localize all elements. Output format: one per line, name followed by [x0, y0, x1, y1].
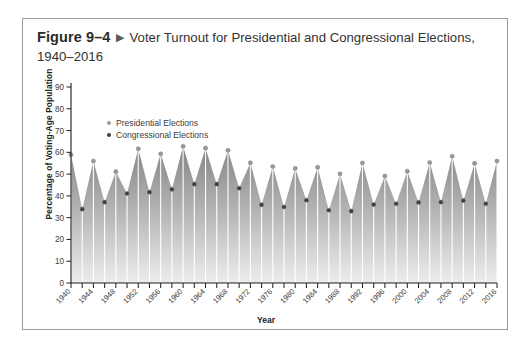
congressional-data-point	[349, 209, 353, 213]
legend-label-congressional: Congressional Elections	[116, 130, 208, 140]
chart-legend: Presidential Elections Congressional Ele…	[107, 117, 208, 141]
presidential-data-point	[316, 165, 320, 169]
x-tick-label: 1968	[211, 287, 229, 305]
presidential-marker-icon	[107, 121, 111, 125]
congressional-data-point	[461, 199, 465, 203]
congressional-marker-icon	[107, 133, 111, 137]
presidential-data-point	[360, 161, 364, 165]
x-tick-label: 1952	[121, 287, 139, 305]
congressional-data-point	[327, 208, 331, 212]
congressional-data-point	[372, 203, 376, 207]
congressional-data-point	[282, 205, 286, 209]
congressional-data-point	[192, 182, 196, 186]
y-tick-label: 70	[55, 127, 65, 136]
congressional-data-point	[215, 182, 219, 186]
legend-item-presidential: Presidential Elections	[107, 117, 208, 129]
presidential-data-point	[271, 164, 275, 168]
x-tick-label: 2008	[435, 287, 453, 305]
y-tick-label: 10	[55, 257, 65, 266]
presidential-data-point	[181, 144, 185, 148]
x-tick-label: 1960	[166, 287, 184, 305]
presidential-data-point	[203, 146, 207, 150]
legend-item-congressional: Congressional Elections	[107, 129, 208, 141]
congressional-data-point	[394, 202, 398, 206]
congressional-data-point	[259, 203, 263, 207]
y-tick-label: 20	[55, 235, 65, 244]
x-tick-label: 1948	[99, 287, 117, 305]
x-tick-label: 2000	[390, 287, 408, 305]
y-tick-label: 80	[55, 105, 65, 114]
x-tick-label: 1992	[346, 287, 364, 305]
chart-area: 0102030405060708090194019441948195219561…	[23, 19, 509, 331]
congressional-data-point	[170, 187, 174, 191]
y-tick-label: 40	[55, 192, 65, 201]
presidential-data-point	[338, 172, 342, 176]
presidential-data-point	[159, 152, 163, 156]
x-tick-label: 1996	[368, 287, 386, 305]
x-tick-label: 2004	[413, 287, 431, 305]
x-axis-title: Year	[23, 315, 509, 325]
presidential-data-point	[91, 159, 95, 163]
turnout-area-chart: 0102030405060708090194019441948195219561…	[23, 19, 509, 331]
presidential-data-point	[114, 170, 118, 174]
x-tick-label: 1964	[189, 287, 207, 305]
congressional-data-point	[125, 191, 129, 195]
y-tick-label: 50	[55, 170, 65, 179]
congressional-data-point	[484, 202, 488, 206]
presidential-data-point	[472, 161, 476, 165]
y-axis-title: Percentage of Voting-Age Population	[44, 54, 54, 234]
x-tick-label: 1956	[144, 287, 162, 305]
congressional-data-point	[80, 207, 84, 211]
legend-label-presidential: Presidential Elections	[116, 118, 198, 128]
x-tick-label: 2016	[480, 287, 498, 305]
presidential-data-point	[405, 169, 409, 173]
congressional-data-point	[304, 198, 308, 202]
presidential-data-point	[428, 160, 432, 164]
presidential-data-point	[248, 161, 252, 165]
x-tick-label: 1940	[54, 287, 72, 305]
presidential-data-point	[226, 148, 230, 152]
x-tick-label: 1988	[323, 287, 341, 305]
presidential-data-point	[136, 147, 140, 151]
congressional-data-point	[103, 200, 107, 204]
x-tick-label: 1976	[256, 287, 274, 305]
x-tick-label: 1972	[233, 287, 251, 305]
y-tick-label: 0	[59, 279, 64, 288]
x-tick-label: 2012	[458, 287, 476, 305]
congressional-data-point	[237, 186, 241, 190]
presidential-data-point	[450, 154, 454, 158]
y-tick-label: 30	[55, 214, 65, 223]
presidential-data-point	[383, 174, 387, 178]
x-tick-label: 1984	[301, 287, 319, 305]
figure-card: Figure 9–4▶Voter Turnout for Presidentia…	[22, 18, 508, 330]
presidential-data-point	[495, 159, 499, 163]
congressional-data-point	[416, 200, 420, 204]
presidential-data-point	[293, 166, 297, 170]
y-tick-label: 90	[55, 83, 65, 92]
congressional-data-point	[439, 200, 443, 204]
x-tick-label: 1944	[77, 287, 95, 305]
x-tick-label: 1980	[278, 287, 296, 305]
y-tick-label: 60	[55, 148, 65, 157]
congressional-data-point	[147, 190, 151, 194]
